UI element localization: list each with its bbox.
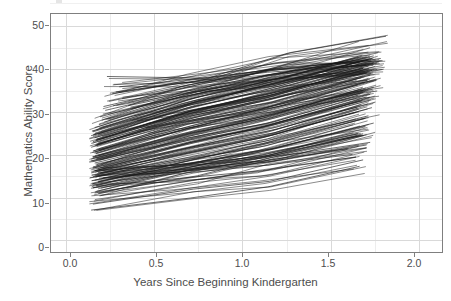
y-tick-mark-40 — [45, 69, 49, 70]
top-crop-artifact — [0, 0, 451, 5]
y-tick-mark-20 — [45, 158, 49, 159]
y-tick-label-40: 40 — [14, 64, 44, 75]
y-tick-mark-30 — [45, 114, 49, 115]
y-axis-ticks: 50 40 30 20 10 0 — [8, 0, 44, 301]
trajectory-lines — [90, 35, 388, 210]
y-tick-label-20: 20 — [14, 153, 44, 164]
x-tick-label-0.0: 0.0 — [50, 258, 90, 269]
y-tick-mark-10 — [45, 203, 49, 204]
artifact-line — [50, 3, 442, 4]
y-tick-label-30: 30 — [14, 109, 44, 120]
plot-panel — [50, 13, 443, 253]
x-tick-label-0.5: 0.5 — [136, 258, 176, 269]
chart-figure: Mathematics Ability Score 50 40 30 20 10… — [0, 0, 451, 301]
x-tick-label-2.0: 2.0 — [394, 258, 434, 269]
y-tick-mark-50 — [45, 25, 49, 26]
y-tick-label-0: 0 — [14, 242, 44, 253]
x-tick-label-1.0: 1.0 — [222, 258, 262, 269]
y-tick-mark-0 — [45, 247, 49, 248]
spaghetti-plot-svg — [51, 14, 442, 252]
x-tick-label-1.5: 1.5 — [308, 258, 348, 269]
y-tick-label-50: 50 — [14, 20, 44, 31]
x-axis-title: Years Since Beginning Kindergarten — [0, 276, 451, 288]
y-tick-label-10: 10 — [14, 198, 44, 209]
